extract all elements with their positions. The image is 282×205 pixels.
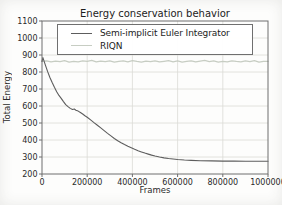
y-tick-label: 1100 bbox=[17, 17, 37, 26]
x-axis-label: Frames bbox=[42, 185, 268, 195]
y-tick-label: 700 bbox=[22, 85, 37, 94]
y-tick-label: 1000 bbox=[17, 34, 37, 43]
y-tick-label: 600 bbox=[22, 102, 37, 111]
legend-entry: Semi-implicit Euler Integrator bbox=[71, 27, 246, 40]
legend: Semi-implicit Euler IntegratorRIQN bbox=[57, 24, 253, 55]
y-tick-label: 200 bbox=[22, 170, 37, 179]
legend-entry: RIQN bbox=[71, 40, 246, 53]
legend-label: Semi-implicit Euler Integrator bbox=[100, 28, 230, 38]
legend-line-swatch bbox=[71, 45, 92, 46]
y-tick-label: 300 bbox=[22, 153, 37, 162]
y-axis-label-wrap: Total Energy bbox=[1, 21, 13, 174]
y-tick-label: 500 bbox=[22, 119, 37, 128]
y-tick-label: 800 bbox=[22, 68, 37, 77]
y-axis-label: Total Energy bbox=[2, 71, 12, 123]
series-line-riqn bbox=[42, 60, 268, 62]
legend-label: RIQN bbox=[100, 41, 122, 51]
series-line-semi-implicit-euler-integrator bbox=[42, 58, 268, 162]
y-tick-label: 900 bbox=[22, 51, 37, 60]
legend-line-swatch bbox=[71, 33, 92, 34]
y-tick-label: 400 bbox=[22, 136, 37, 145]
figure: Energy conservation behavior 02000004000… bbox=[0, 0, 282, 205]
